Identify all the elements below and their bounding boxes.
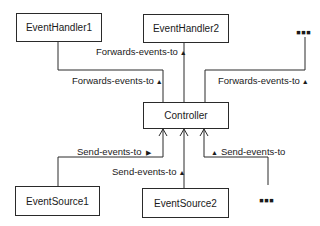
edge-sourcemore-controller [204,129,268,185]
more-handlers-ellipsis: ▪▪▪ [296,27,311,37]
direction-up-icon: ▲ [178,169,185,176]
node-event-source1: EventSource1 [15,186,100,216]
node-controller: Controller [143,102,229,129]
node-event-handler1: EventHandler1 [16,13,102,42]
edge-handlermore-controller [205,37,305,102]
edge-label-text: Forwards-events-to [218,75,300,86]
direction-up-icon: ▲ [180,49,187,56]
edge-label-handler2: Forwards-events-to▲ [96,46,187,57]
node-event-source2: EventSource2 [142,188,229,218]
node-label: EventSource2 [154,198,217,209]
direction-right-icon: ▶ [146,149,151,156]
edge-label-sourcemore: ▲Send-events-to [211,146,285,157]
edge-label-source1: Send-events-to▶ [77,146,151,157]
edge-label-handlermore: Forwards-events-to▲ [218,75,309,86]
direction-up-icon: ▲ [302,78,309,85]
node-event-handler2: EventHandler2 [143,14,229,43]
direction-up-icon: ▲ [156,78,163,85]
edge-label-text: Forwards-events-to [96,46,178,57]
edge-label-text: Send-events-to [112,166,176,177]
node-label: EventHandler2 [153,23,219,34]
node-label: Controller [164,110,207,121]
edge-source1-controller [58,129,163,186]
more-sources-ellipsis: ▪▪▪ [259,195,274,205]
edge-label-handler1: Forwards-events-to▲ [72,75,163,86]
edge-label-source2: Send-events-to▲ [112,166,185,177]
direction-up-icon: ▲ [211,149,218,156]
edge-label-text: Forwards-events-to [72,75,154,86]
edge-label-text: Send-events-to [221,146,285,157]
edge-label-text: Send-events-to [77,146,141,157]
node-label: EventHandler1 [26,22,92,33]
node-label: EventSource1 [26,196,89,207]
